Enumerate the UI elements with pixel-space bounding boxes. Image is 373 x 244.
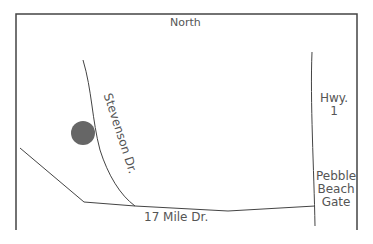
west-road (20, 148, 84, 202)
pebble-beach-gate-label: Pebble Beach Gate (316, 170, 356, 209)
gate-label-line3: Gate (316, 196, 356, 209)
location-marker[interactable] (71, 121, 95, 145)
north-label: North (170, 16, 201, 29)
hwy-1-road (311, 52, 315, 226)
hwy-1-label: Hwy. 1 (320, 92, 348, 118)
map-border (16, 14, 357, 230)
17-mile-dr-label: 17 Mile Dr. (144, 211, 208, 224)
hwy-1-label-line2: 1 (320, 105, 348, 118)
